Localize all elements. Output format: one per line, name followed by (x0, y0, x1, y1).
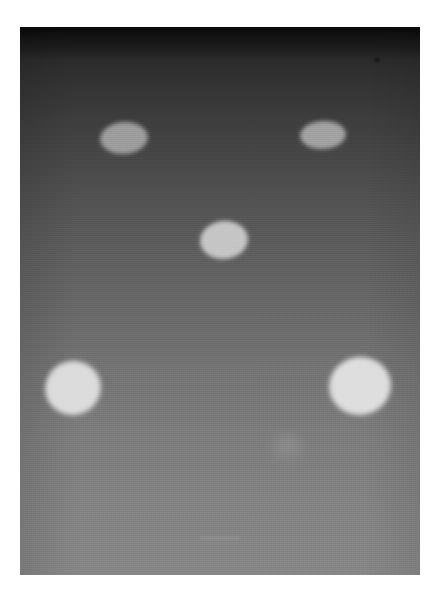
page-canvas (0, 0, 440, 601)
vignette-layer (20, 27, 420, 575)
top-shade-layer (20, 27, 420, 61)
photograph-plate (20, 27, 420, 575)
image-caption (0, 0, 1, 1)
